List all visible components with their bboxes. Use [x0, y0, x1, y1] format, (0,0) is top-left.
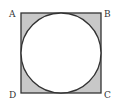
label-d: D — [9, 90, 16, 100]
diagram-canvas: A B C D — [0, 0, 113, 101]
inscribed-circle — [21, 13, 101, 93]
label-a: A — [8, 9, 16, 19]
label-b: B — [104, 9, 111, 19]
label-c: C — [104, 90, 111, 100]
